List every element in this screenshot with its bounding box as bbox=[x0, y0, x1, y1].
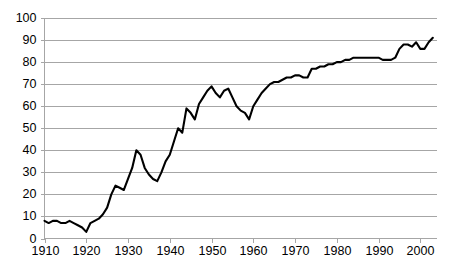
x-tick-label: 1940 bbox=[157, 244, 185, 258]
line-chart: 0102030405060708090100 19101920193019401… bbox=[0, 0, 450, 272]
x-tick-label: 1990 bbox=[366, 244, 394, 258]
y-tick-label: 50 bbox=[23, 121, 37, 135]
x-tick-label: 1920 bbox=[73, 244, 101, 258]
x-tick-label: 1980 bbox=[324, 244, 352, 258]
chart-canvas: 0102030405060708090100 19101920193019401… bbox=[0, 0, 450, 272]
x-tick-label: 1910 bbox=[32, 244, 60, 258]
x-tick-label: 2000 bbox=[407, 244, 435, 258]
y-tick-label: 80 bbox=[23, 55, 37, 69]
y-tick-label: 60 bbox=[23, 99, 37, 113]
x-tick-label: 1930 bbox=[115, 244, 143, 258]
y-tick-label: 30 bbox=[23, 165, 37, 179]
x-tick-label: 1960 bbox=[240, 244, 268, 258]
y-tick-label: 100 bbox=[16, 11, 37, 25]
x-axis-ticks-group: 1910192019301940195019601970198019902000 bbox=[32, 239, 435, 259]
y-tick-label: 40 bbox=[23, 143, 37, 157]
x-tick-label: 1970 bbox=[282, 244, 310, 258]
y-tick-label: 70 bbox=[23, 77, 37, 91]
y-tick-label: 90 bbox=[23, 33, 37, 47]
x-tick-label: 1950 bbox=[199, 244, 227, 258]
y-tick-label: 20 bbox=[23, 187, 37, 201]
y-axis-ticks-group: 0102030405060708090100 bbox=[16, 11, 45, 246]
y-tick-label: 10 bbox=[23, 209, 37, 223]
